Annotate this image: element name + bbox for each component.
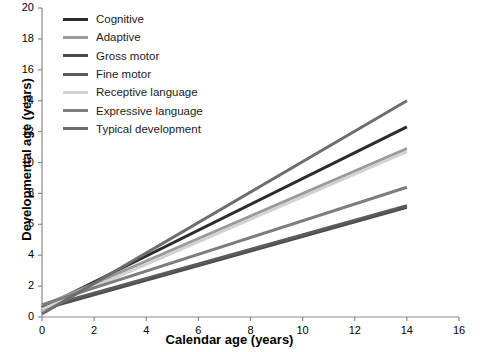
legend-swatch-icon	[63, 109, 88, 112]
legend-item[interactable]: Gross motor	[63, 47, 203, 65]
legend-swatch-icon	[63, 91, 88, 94]
legend-item[interactable]: Receptive language	[63, 83, 203, 101]
legend-swatch-icon	[63, 18, 88, 21]
legend-item[interactable]: Cognitive	[63, 10, 203, 28]
legend-item-label: Receptive language	[96, 86, 198, 98]
legend-item[interactable]: Adaptive	[63, 28, 203, 46]
legend-swatch-icon	[63, 36, 88, 39]
legend-item-label: Expressive language	[96, 105, 203, 117]
y-tick-label: 0	[8, 310, 34, 322]
legend-item[interactable]: Typical development	[63, 120, 203, 138]
legend-item-label: Gross motor	[96, 50, 159, 62]
legend-item-label: Adaptive	[96, 31, 141, 43]
y-tick-label: 2	[8, 279, 34, 291]
y-tick-label: 18	[8, 32, 34, 44]
legend-swatch-icon	[63, 73, 88, 76]
y-tick-label: 20	[8, 1, 34, 13]
legend-item[interactable]: Fine motor	[63, 65, 203, 83]
x-tick-label: 16	[446, 324, 472, 336]
legend-item-label: Cognitive	[96, 13, 144, 25]
x-axis-title: Calendar age (years)	[42, 332, 417, 347]
legend-item[interactable]: Expressive language	[63, 101, 203, 119]
y-axis-title: Developmental age (years)	[19, 50, 34, 270]
series-line-fine-motor	[42, 206, 407, 308]
legend-swatch-icon	[63, 54, 88, 57]
legend-item-label: Fine motor	[96, 68, 151, 80]
chart-legend: CognitiveAdaptiveGross motorFine motorRe…	[63, 10, 203, 138]
legend-item-label: Typical development	[96, 123, 201, 135]
legend-swatch-icon	[63, 127, 88, 130]
chart-container: 02468101214161820 0246810121416 Developm…	[0, 0, 483, 352]
series-line-expressive-language	[42, 187, 407, 304]
